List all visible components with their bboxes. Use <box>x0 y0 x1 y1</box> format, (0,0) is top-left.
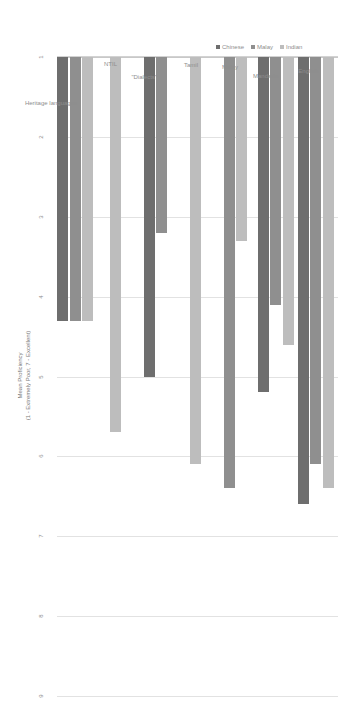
bar <box>224 57 235 488</box>
bar-group: "Dialects" <box>137 57 177 695</box>
category-label: English <box>298 68 318 74</box>
bar <box>82 57 93 321</box>
bar-group: Heritage languages <box>57 57 97 695</box>
legend-swatch <box>216 45 220 49</box>
legend-swatch <box>280 45 284 49</box>
bar <box>298 57 309 504</box>
x-axis-title-line1: Mean Proficiency <box>17 352 23 398</box>
x-axis-title: Mean Proficiency (1 - Extremely Poor, 7 … <box>16 56 32 695</box>
bar-group: Malay <box>218 57 258 695</box>
legend-item: Indian <box>280 44 302 50</box>
category-label: Tamil <box>184 62 198 68</box>
bar <box>144 57 155 377</box>
x-tick-label-1: 1 <box>38 55 44 58</box>
bar <box>323 57 334 488</box>
x-tick-label-6: 6 <box>38 455 44 458</box>
x-tick-label-2: 2 <box>38 135 44 138</box>
bar-chart: 123456789EnglishMandarinMalayTamil"Diale… <box>0 0 346 705</box>
x-tick-label-3: 3 <box>38 215 44 218</box>
bar <box>190 57 201 464</box>
bar-group: English <box>298 57 338 695</box>
legend-label: Malay <box>257 44 273 50</box>
bar <box>57 57 68 321</box>
legend-item: Malay <box>251 44 273 50</box>
legend-swatch <box>251 45 255 49</box>
bar-group: Tamil <box>177 57 217 695</box>
bar <box>156 57 167 233</box>
category-label: Malay <box>222 64 238 70</box>
plot-area: 123456789EnglishMandarinMalayTamil"Diale… <box>57 56 338 695</box>
x-tick-label-4: 4 <box>38 295 44 298</box>
category-label: NTIL <box>104 61 117 67</box>
bar <box>110 57 121 432</box>
x-tick-label-7: 7 <box>38 535 44 538</box>
gridline-9 <box>57 696 338 697</box>
x-tick-label-8: 8 <box>38 614 44 617</box>
bar <box>270 57 281 305</box>
x-tick-label-5: 5 <box>38 375 44 378</box>
x-tick-label-9: 9 <box>38 694 44 697</box>
bar <box>310 57 321 464</box>
category-label: Heritage languages <box>25 100 77 106</box>
bar <box>258 57 269 392</box>
bar <box>236 57 247 241</box>
legend-label: Indian <box>286 44 302 50</box>
bar <box>283 57 294 345</box>
legend-label: Chinese <box>222 44 244 50</box>
bar-group: Mandarin <box>258 57 298 695</box>
legend-item: Chinese <box>216 44 244 50</box>
bar-group: NTIL <box>97 57 137 695</box>
chart-legend: ChineseMalayIndian <box>216 44 302 50</box>
x-axis-title-line2: (1 - Extremely Poor, 7 - Excellent) <box>24 56 32 695</box>
bar <box>70 57 81 321</box>
screenshot-root: 123456789EnglishMandarinMalayTamil"Diale… <box>0 0 346 705</box>
